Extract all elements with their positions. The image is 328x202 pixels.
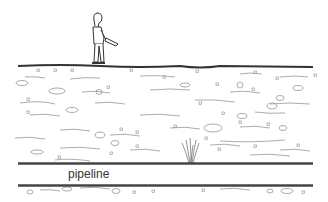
ground-surface xyxy=(18,65,313,68)
pipeline-label: pipeline xyxy=(68,167,109,181)
diagram-canvas xyxy=(0,0,328,202)
leak-plume xyxy=(182,138,199,163)
person-with-detector xyxy=(92,13,118,63)
soil-texture xyxy=(15,73,310,194)
